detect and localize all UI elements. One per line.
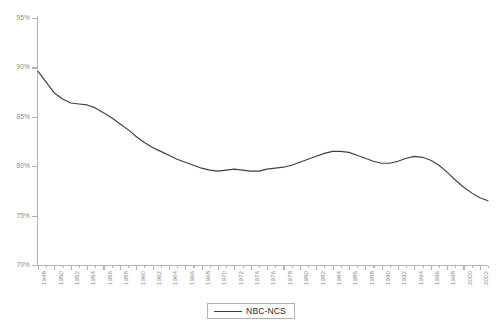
x-tick-label: 1950	[57, 271, 64, 285]
y-tick-mark	[32, 67, 37, 68]
x-tick-mark	[447, 266, 448, 270]
x-axis-labels: 1948195019521954195619581960196219641966…	[0, 266, 502, 306]
x-tick-mark	[382, 266, 383, 270]
x-minor-tick-mark	[95, 266, 96, 268]
x-tick-label: 1964	[171, 271, 178, 285]
x-tick-label: 1978	[286, 271, 293, 285]
x-minor-tick-mark	[275, 266, 276, 268]
x-tick-mark	[300, 266, 301, 270]
x-tick-mark	[169, 266, 170, 270]
x-tick-mark	[251, 266, 252, 270]
x-tick-mark	[480, 266, 481, 270]
x-minor-tick-mark	[390, 266, 391, 268]
x-tick-mark	[283, 266, 284, 270]
x-tick-mark	[267, 266, 268, 270]
x-minor-tick-mark	[308, 266, 309, 268]
x-tick-mark	[333, 266, 334, 270]
y-axis-line	[37, 16, 38, 266]
x-tick-label: 1990	[384, 271, 391, 285]
x-minor-tick-mark	[193, 266, 194, 268]
chart-legend: NBC-NCS	[207, 303, 295, 319]
x-tick-mark	[153, 266, 154, 270]
y-tick-mark	[32, 18, 37, 19]
x-minor-tick-mark	[341, 266, 342, 268]
x-minor-tick-mark	[177, 266, 178, 268]
x-minor-tick-mark	[423, 266, 424, 268]
x-tick-label: 1986	[351, 271, 358, 285]
x-minor-tick-mark	[292, 266, 293, 268]
x-tick-mark	[87, 266, 88, 270]
x-tick-mark	[234, 266, 235, 270]
x-minor-tick-mark	[324, 266, 325, 268]
x-minor-tick-mark	[63, 266, 64, 268]
x-tick-mark	[431, 266, 432, 270]
x-tick-label: 1992	[400, 271, 407, 285]
legend-label-nbc-ncs: NBC-NCS	[246, 306, 286, 316]
x-minor-tick-mark	[112, 266, 113, 268]
x-tick-mark	[218, 266, 219, 270]
x-tick-label: 2002	[482, 271, 489, 285]
x-tick-label: 1982	[319, 271, 326, 285]
y-tick-label: 80%	[0, 162, 30, 169]
x-minor-tick-mark	[472, 266, 473, 268]
y-tick-label: 75%	[0, 212, 30, 219]
legend-line-swatch	[214, 311, 242, 312]
x-tick-label: 1966	[188, 271, 195, 285]
x-tick-mark	[120, 266, 121, 270]
x-tick-label: 1998	[449, 271, 456, 285]
x-tick-mark	[316, 266, 317, 270]
x-tick-label: 1984	[335, 271, 342, 285]
x-minor-tick-mark	[128, 266, 129, 268]
x-tick-mark	[202, 266, 203, 270]
x-minor-tick-mark	[144, 266, 145, 268]
x-tick-label: 1976	[269, 271, 276, 285]
x-tick-label: 2000	[466, 271, 473, 285]
x-tick-mark	[103, 266, 104, 270]
chart-container: 95%90%85%80%75%70% 194819501952195419561…	[0, 0, 502, 328]
x-tick-label: 1958	[122, 271, 129, 285]
x-tick-mark	[398, 266, 399, 270]
x-tick-label: 1968	[204, 271, 211, 285]
x-minor-tick-mark	[161, 266, 162, 268]
y-tick-label: 85%	[0, 113, 30, 120]
x-minor-tick-mark	[226, 266, 227, 268]
x-tick-mark	[38, 266, 39, 270]
x-tick-mark	[365, 266, 366, 270]
y-tick-mark	[32, 166, 37, 167]
x-tick-mark	[54, 266, 55, 270]
x-tick-label: 1962	[155, 271, 162, 285]
x-minor-tick-mark	[259, 266, 260, 268]
y-tick-label: 95%	[0, 14, 30, 21]
x-minor-tick-mark	[455, 266, 456, 268]
x-tick-mark	[136, 266, 137, 270]
x-tick-label: 1994	[417, 271, 424, 285]
x-tick-mark	[414, 266, 415, 270]
x-tick-label: 1988	[368, 271, 375, 285]
x-tick-mark	[463, 266, 464, 270]
x-tick-label: 1956	[106, 271, 113, 285]
x-tick-label: 1980	[302, 271, 309, 285]
x-minor-tick-mark	[210, 266, 211, 268]
x-tick-mark	[185, 266, 186, 270]
x-tick-label: 1952	[73, 271, 80, 285]
x-tick-mark	[349, 266, 350, 270]
x-minor-tick-mark	[488, 266, 489, 268]
x-tick-label: 1954	[89, 271, 96, 285]
x-tick-label: 1960	[139, 271, 146, 285]
y-tick-mark	[32, 117, 37, 118]
x-minor-tick-mark	[406, 266, 407, 268]
x-tick-label: 1996	[433, 271, 440, 285]
x-tick-mark	[71, 266, 72, 270]
x-minor-tick-mark	[243, 266, 244, 268]
x-minor-tick-mark	[46, 266, 47, 268]
x-minor-tick-mark	[439, 266, 440, 268]
x-minor-tick-mark	[357, 266, 358, 268]
y-tick-label: 90%	[0, 63, 30, 70]
x-minor-tick-mark	[79, 266, 80, 268]
x-minor-tick-mark	[373, 266, 374, 268]
x-tick-label: 1970	[220, 271, 227, 285]
y-tick-mark	[32, 216, 37, 217]
x-tick-label: 1974	[253, 271, 260, 285]
x-tick-label: 1948	[40, 271, 47, 285]
x-tick-label: 1972	[237, 271, 244, 285]
